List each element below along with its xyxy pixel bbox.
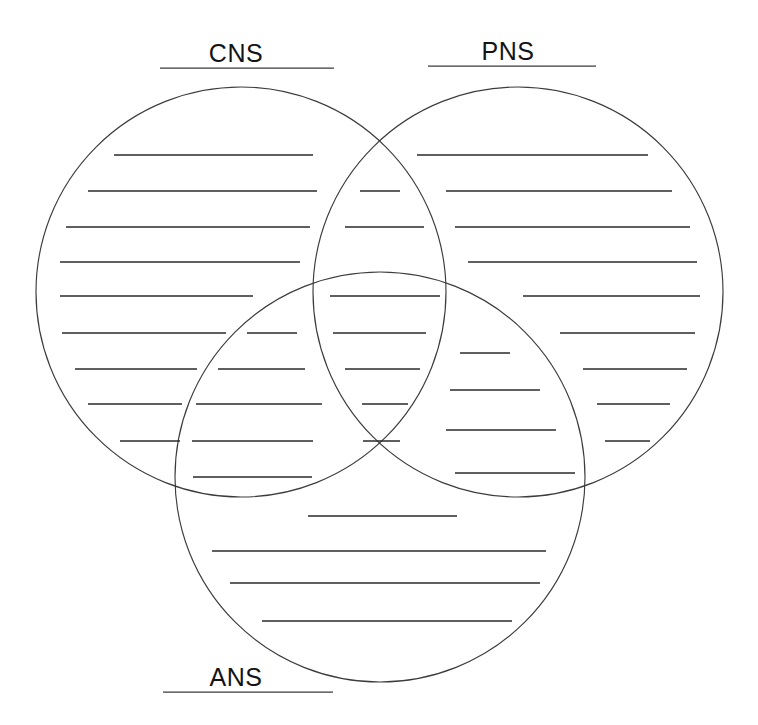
cns-only-writing-lines[interactable] [60,155,317,441]
venn-circles-group [36,87,723,682]
center-overlap-writing-lines[interactable] [330,296,440,441]
cns-label: CNS [209,39,263,67]
ans-label: ANS [210,663,263,691]
pns-label: PNS [482,37,535,65]
pns-circle[interactable] [313,87,723,497]
venn-diagram-worksheet: CNS PNS ANS [0,0,758,725]
cns-circle[interactable] [36,87,446,497]
pns-label-group[interactable]: PNS [428,37,596,66]
cns-ans-overlap-writing-lines[interactable] [192,333,322,477]
ans-only-writing-lines[interactable] [212,516,546,621]
cns-pns-overlap-writing-lines[interactable] [345,191,424,227]
ans-label-group[interactable]: ANS [163,663,333,692]
pns-only-writing-lines[interactable] [417,155,700,441]
venn-diagram-canvas: CNS PNS ANS [0,0,758,725]
cns-label-group[interactable]: CNS [160,39,334,68]
